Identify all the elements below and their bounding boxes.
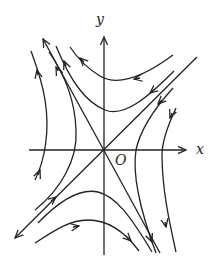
arrow-right-1 <box>165 222 166 227</box>
trajectory-upper-1 <box>70 47 173 80</box>
arrow-left-2 <box>56 67 58 71</box>
trajectory-upper-4 <box>162 108 176 252</box>
origin-label: O <box>115 153 126 167</box>
arrow-upper-1 <box>134 78 140 79</box>
arrow-lower-2 <box>73 226 79 227</box>
trajectory-lower-1 <box>38 191 152 252</box>
phase-portrait <box>0 0 214 269</box>
trajectory-upper-2 <box>56 46 174 112</box>
x-axis-label: x <box>196 142 204 156</box>
arrow-left-1b <box>38 170 40 175</box>
arrow-lower-2b <box>127 237 131 241</box>
trajectory-lower-2 <box>35 220 139 251</box>
trajectory-left-1 <box>31 51 47 180</box>
arrow-upper-2 <box>150 89 155 93</box>
y-axis-label: y <box>96 12 104 26</box>
